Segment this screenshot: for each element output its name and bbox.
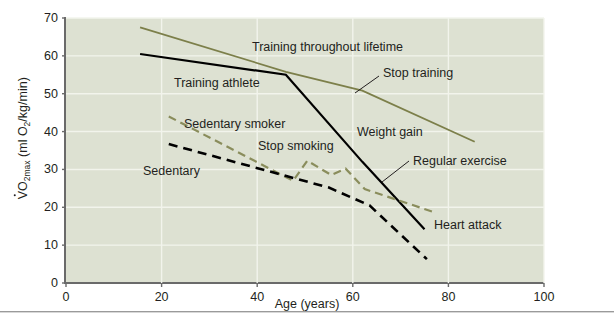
series-line-3 bbox=[169, 144, 427, 259]
y-title-sub: 2max bbox=[22, 160, 32, 181]
figure-vo2max-vs-age: 010203040506070 020406080100 Training th… bbox=[0, 0, 614, 322]
annotation-label: Training athlete bbox=[174, 77, 260, 90]
x-tick-label: 80 bbox=[428, 291, 468, 304]
annotation-leader-line bbox=[382, 161, 409, 182]
y-title-units-b: /kg/min) bbox=[16, 77, 30, 121]
annotation-label: Stop smoking bbox=[258, 140, 334, 153]
y-tick-label: 0 bbox=[18, 277, 58, 290]
annotation-label: Stop training bbox=[383, 67, 453, 80]
y-title-o: O bbox=[16, 181, 30, 191]
annotation-label: Training throughout lifetime bbox=[252, 41, 403, 54]
annotation-label: Regular exercise bbox=[413, 155, 507, 168]
v-dot-glyph: V bbox=[16, 191, 30, 199]
annotation-label: Heart attack bbox=[434, 219, 501, 232]
y-title-units-a: (ml O bbox=[16, 126, 30, 160]
y-title-units-sub: 2 bbox=[22, 122, 32, 127]
x-tick-label: 100 bbox=[524, 291, 564, 304]
x-axis-title: Age (years) bbox=[207, 297, 407, 311]
x-tick-label: 0 bbox=[46, 291, 86, 304]
annotation-label: Sedentary bbox=[143, 165, 200, 178]
y-axis-title: VO2max (ml O2/kg/min) bbox=[16, 18, 33, 258]
x-tick-label: 20 bbox=[142, 291, 182, 304]
annotation-leader-line bbox=[355, 76, 379, 93]
figure-bottom-rule bbox=[0, 311, 614, 313]
annotation-label: Sedentary smoker bbox=[184, 118, 285, 131]
annotation-label: Weight gain bbox=[357, 126, 423, 139]
